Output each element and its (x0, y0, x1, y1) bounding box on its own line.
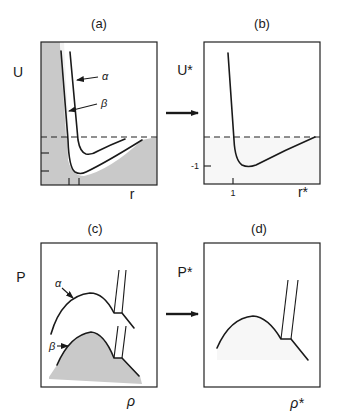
panel-c-alpha-curve (51, 293, 134, 334)
panel-b: (b) U* r* -1 1 (177, 16, 320, 200)
panel-d-coexist-left (281, 280, 288, 339)
corresponding-states-figure: (a) U r α β (b) U* r* (0, 0, 339, 420)
panel-c-beta-coexist-right (122, 326, 126, 358)
panel-a-beta-label: β (100, 97, 108, 109)
panel-c-alpha-coexist-right (122, 270, 126, 313)
panel-b-xtick-label: 1 (230, 188, 235, 198)
panel-a-alpha-label: α (102, 70, 109, 82)
panel-d-ylabel: P* (178, 264, 193, 280)
panel-b-ylabel: U* (177, 62, 193, 78)
panel-a-ylabel: U (13, 64, 23, 80)
panel-b-xlabel: r* (298, 184, 309, 200)
panel-c-beta-region (49, 332, 142, 384)
panel-d-under-curve-shade (217, 316, 308, 360)
panel-c-alpha-pointer (62, 288, 73, 298)
panel-c-xlabel: ρ (126, 393, 135, 409)
panel-a: (a) U r α β (13, 16, 157, 202)
panel-c-title: (c) (87, 221, 102, 236)
panel-b-ytick-label: -1 (191, 161, 199, 171)
panel-c: (c) P ρ α β (16, 221, 157, 409)
panel-b-title: (b) (254, 16, 270, 31)
panel-c-ylabel: P (16, 269, 25, 285)
panel-d-xlabel: ρ* (289, 395, 304, 411)
panel-c-alpha-coexist-left (114, 270, 119, 313)
panel-d-coexist-right (291, 280, 298, 339)
panel-d-title: (d) (251, 221, 267, 236)
panel-d-frame (204, 243, 320, 387)
panel-c-beta-label: β (48, 340, 56, 352)
panel-c-beta-coexist-left (114, 326, 118, 358)
panel-d: (d) P* ρ* (178, 221, 320, 411)
panel-a-xlabel: r (130, 186, 135, 202)
panel-a-title: (a) (91, 16, 107, 31)
panel-b-below-zero-shade (204, 137, 320, 184)
panel-c-alpha-label: α (55, 277, 62, 289)
